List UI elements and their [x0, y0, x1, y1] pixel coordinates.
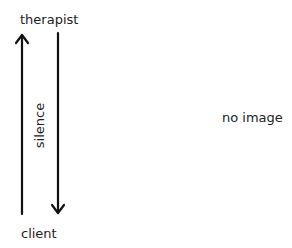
down-arrow [52, 33, 64, 213]
up-arrow [16, 35, 28, 214]
no-image-placeholder: no image [222, 110, 283, 125]
silence-label: silence [32, 101, 47, 151]
therapist-label: therapist [20, 12, 78, 27]
client-label: client [21, 226, 57, 241]
